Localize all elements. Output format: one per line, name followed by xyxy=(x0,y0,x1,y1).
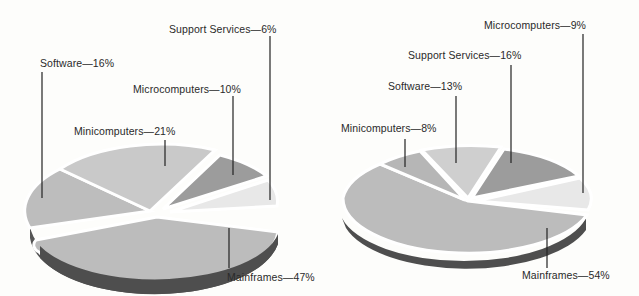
right-label-software: Software—13% xyxy=(388,80,462,92)
right-pie xyxy=(342,34,591,269)
left-label-microcomputers: Microcomputers—10% xyxy=(133,83,241,95)
left-pie xyxy=(25,36,278,294)
left-label-software: Software—16% xyxy=(40,57,114,69)
left-label-support: Support Services—6% xyxy=(169,23,277,35)
right-label-microcomputers: Microcomputers—9% xyxy=(484,19,586,31)
right-label-minicomputers: Minicomputers—8% xyxy=(341,122,437,134)
left-label-minicomputers: Minicomputers—21% xyxy=(74,125,176,137)
left-label-mainframes: Mainframes—47% xyxy=(227,271,315,283)
right-label-mainframes: Mainframes—54% xyxy=(522,269,610,281)
right-label-support: Support Services—16% xyxy=(408,49,521,61)
pie-charts xyxy=(0,0,639,296)
